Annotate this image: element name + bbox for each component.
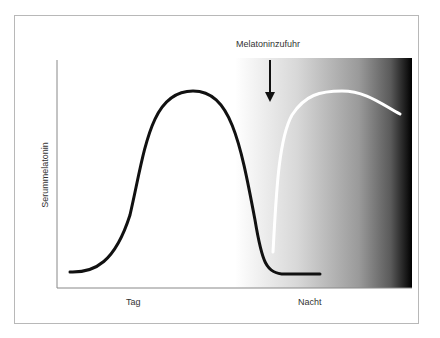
annotation-label: Melatoninzufuhr [236, 39, 300, 49]
y-axis-label: Serummelatonin [40, 130, 50, 220]
melatonin-diagram [0, 0, 440, 338]
x-label-night: Nacht [298, 297, 322, 307]
x-label-day: Tag [126, 297, 141, 307]
